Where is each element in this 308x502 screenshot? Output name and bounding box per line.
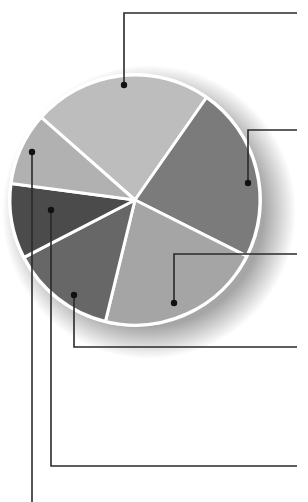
leader-dot-1 (121, 82, 127, 88)
pie-chart (0, 0, 308, 502)
pie-slices (8, 73, 262, 327)
leader-dot-4 (71, 292, 77, 298)
leader-dot-2 (245, 180, 251, 186)
leader-dot-6 (29, 149, 35, 155)
leader-dot-5 (48, 207, 54, 213)
leader-dot-3 (171, 300, 177, 306)
